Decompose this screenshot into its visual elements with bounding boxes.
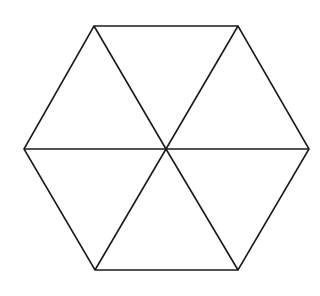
hexagon-diagram	[0, 0, 320, 296]
diagram-canvas	[0, 0, 320, 296]
spoke-bottom-right	[166, 149, 238, 270]
spoke-bottom-left	[95, 149, 166, 270]
spoke-top-right	[166, 26, 238, 149]
hexagon-spokes	[24, 26, 309, 270]
spoke-top-left	[94, 26, 166, 149]
